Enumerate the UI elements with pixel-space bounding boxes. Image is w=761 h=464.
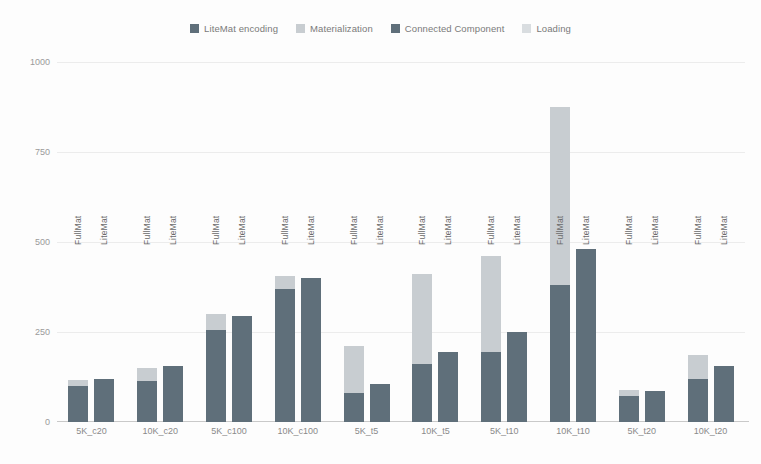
- x-axis-tick-label: 10K_c20: [142, 426, 178, 436]
- legend-swatch-icon: [522, 24, 531, 33]
- plot-area: 02505007501000 FullMatLiteMatFullMatLite…: [57, 62, 745, 422]
- legend-item-label: LiteMat encoding: [204, 24, 278, 34]
- x-axis-tick-label: 10K_t20: [694, 426, 728, 436]
- x-axis-labels: 5K_c2010K_c205K_c10010K_c1005K_t510K_t55…: [57, 426, 745, 446]
- y-axis-tick-label: 0: [45, 417, 50, 427]
- bar-series-label: LiteMat: [169, 215, 178, 244]
- bar-segment: [619, 396, 639, 422]
- bar-stack: [688, 355, 708, 422]
- bar-series-label: FullMat: [487, 215, 496, 244]
- bar-series-label: LiteMat: [444, 215, 453, 244]
- bar-stack: [68, 380, 88, 422]
- bar-stack: [275, 276, 295, 422]
- bar-stack: [645, 391, 665, 422]
- bar-series-label: LiteMat: [238, 215, 247, 244]
- bar-segment: [481, 352, 501, 422]
- bar-stack: [301, 278, 321, 422]
- bar-segment: [550, 285, 570, 422]
- y-axis-tick-label: 1000: [30, 57, 50, 67]
- legend-swatch-icon: [391, 24, 400, 33]
- gridline: 0: [57, 422, 745, 423]
- bar-series-label: FullMat: [281, 215, 290, 244]
- x-axis-tick-label: 10K_t5: [421, 426, 450, 436]
- bar-segment: [137, 381, 157, 422]
- legend-item[interactable]: Loading: [522, 24, 571, 34]
- legend-item-label: Connected Component: [405, 24, 505, 34]
- bar-stack: [412, 274, 432, 422]
- bar-series-label: FullMat: [143, 215, 152, 244]
- bar-stack: [576, 249, 596, 422]
- bar-segment: [94, 379, 114, 422]
- x-axis-tick-label: 5K_c20: [76, 426, 107, 436]
- legend-item[interactable]: Materialization: [296, 24, 373, 34]
- legend-item[interactable]: Connected Component: [391, 24, 505, 34]
- bar-stack: [163, 366, 183, 422]
- bar-segment: [438, 352, 458, 422]
- bar-series-container: FullMatLiteMatFullMatLiteMatFullMatLiteM…: [57, 62, 745, 422]
- bar-series-label: LiteMat: [719, 215, 728, 244]
- legend-swatch-icon: [190, 24, 199, 33]
- bar-stack: [344, 346, 364, 422]
- bar-segment: [163, 366, 183, 422]
- y-axis-tick-label: 500: [35, 237, 50, 247]
- x-axis-tick-label: 5K_t5: [355, 426, 379, 436]
- bar-segment: [344, 393, 364, 422]
- bar-series-label: LiteMat: [582, 215, 591, 244]
- bar-segment: [714, 366, 734, 422]
- bar-segment: [344, 346, 364, 393]
- bar-stack: [550, 107, 570, 422]
- bar-segment: [68, 386, 88, 422]
- bar-series-label: FullMat: [212, 215, 221, 244]
- bar-segment: [688, 379, 708, 422]
- bar-segment: [301, 278, 321, 422]
- y-axis-tick-label: 750: [35, 147, 50, 157]
- x-axis-tick-label: 5K_t20: [628, 426, 657, 436]
- x-axis-tick-label: 10K_t10: [556, 426, 590, 436]
- bar-stack: [619, 390, 639, 422]
- bar-segment: [206, 330, 226, 422]
- bar-stack: [507, 332, 527, 422]
- bar-series-label: LiteMat: [375, 215, 384, 244]
- bar-series-label: FullMat: [556, 215, 565, 244]
- legend-swatch-icon: [296, 24, 305, 33]
- bar-stack: [137, 368, 157, 422]
- bar-segment: [370, 384, 390, 422]
- bar-segment: [645, 391, 665, 422]
- bar-stack: [206, 314, 226, 422]
- bar-chart: LiteMat encodingMaterializationConnected…: [0, 0, 761, 464]
- y-axis-tick-label: 250: [35, 327, 50, 337]
- x-axis-tick-label: 10K_c100: [278, 426, 319, 436]
- bar-segment: [688, 355, 708, 378]
- bar-segment: [481, 256, 501, 351]
- chart-legend: LiteMat encodingMaterializationConnected…: [0, 24, 761, 34]
- legend-item-label: Materialization: [310, 24, 373, 34]
- bar-stack: [481, 256, 501, 422]
- bar-segment: [275, 289, 295, 422]
- bar-series-label: FullMat: [74, 215, 83, 244]
- bar-series-label: LiteMat: [651, 215, 660, 244]
- bar-segment: [206, 314, 226, 330]
- bar-series-label: LiteMat: [307, 215, 316, 244]
- legend-item[interactable]: LiteMat encoding: [190, 24, 278, 34]
- bar-stack: [94, 379, 114, 422]
- bar-segment: [412, 274, 432, 364]
- bar-stack: [714, 366, 734, 422]
- bar-series-label: FullMat: [625, 215, 634, 244]
- bar-series-label: LiteMat: [513, 215, 522, 244]
- x-axis-tick-label: 5K_t10: [490, 426, 519, 436]
- bar-segment: [275, 276, 295, 289]
- bar-segment: [507, 332, 527, 422]
- bar-stack: [438, 352, 458, 422]
- bar-stack: [232, 316, 252, 422]
- bar-series-label: LiteMat: [100, 215, 109, 244]
- bar-segment: [137, 368, 157, 381]
- bar-segment: [550, 107, 570, 285]
- bar-segment: [412, 364, 432, 422]
- bar-segment: [232, 316, 252, 422]
- bar-segment: [576, 249, 596, 422]
- legend-item-label: Loading: [536, 24, 571, 34]
- x-axis-tick-label: 5K_c100: [211, 426, 247, 436]
- bar-series-label: FullMat: [418, 215, 427, 244]
- bar-series-label: FullMat: [349, 215, 358, 244]
- bar-stack: [370, 384, 390, 422]
